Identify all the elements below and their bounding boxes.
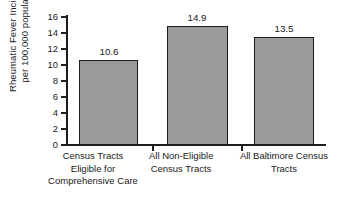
bar-all-baltimore-census-tracts[interactable] xyxy=(254,37,314,145)
y-tick-label-8: 8 xyxy=(18,76,58,86)
y-tick-label-2: 2 xyxy=(18,124,58,134)
plot-area xyxy=(66,17,325,145)
x-axis-label-3-line-2: Tracts xyxy=(230,163,338,176)
y-tick-label-0: 0 xyxy=(18,140,58,150)
bar-value-label-3: 13.5 xyxy=(254,24,314,34)
x-axis-label-all-baltimore: All Baltimore Census Tracts xyxy=(230,150,338,175)
y-tick-label-12: 12 xyxy=(18,44,58,54)
x-axis-label-1-line-1: Census Tracts xyxy=(44,150,142,163)
x-axis-label-census-tracts-eligible: Census Tracts Eligible for Comprehensive… xyxy=(44,150,142,188)
x-axis-label-2-line-1: All Non-Eligible xyxy=(149,150,213,163)
bar-all-non-eligible-census-tracts[interactable] xyxy=(167,26,228,145)
bar-value-label-2: 14.9 xyxy=(167,13,227,23)
y-tick-label-6: 6 xyxy=(18,92,58,102)
x-axis-label-2-line-2: Census Tracts xyxy=(149,163,213,176)
x-axis-label-1-line-2: Eligible for xyxy=(44,163,142,176)
bar-value-label-1: 10.6 xyxy=(79,47,139,57)
y-tick-label-16: 16 xyxy=(18,12,58,22)
y-tick-label-10: 10 xyxy=(18,60,58,70)
y-tick-label-4: 4 xyxy=(18,108,58,118)
x-axis-label-3-line-1: All Baltimore Census xyxy=(230,150,338,163)
rheumatic-fever-incidence-bar-chart: Rheumatic Fever Incidence per 100,000 po… xyxy=(0,0,340,198)
bar-census-tracts-eligible[interactable] xyxy=(79,60,138,145)
y-tick-label-14: 14 xyxy=(18,28,58,38)
x-axis-label-all-non-eligible: All Non-Eligible Census Tracts xyxy=(149,150,213,175)
x-axis-label-1-line-3: Comprehensive Care xyxy=(44,175,142,188)
